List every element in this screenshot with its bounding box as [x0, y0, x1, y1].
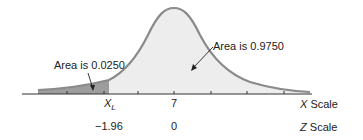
x-scale-label: X Scale: [300, 98, 338, 110]
right-area-label: Area is 0.9750: [213, 40, 284, 52]
normal-distribution-figure: Area is 0.0250 Area is 0.9750 XL 7 X Sca…: [0, 0, 363, 140]
z-center-value: 0: [171, 120, 177, 132]
x-center-value: 7: [171, 97, 177, 109]
z-scale-letter: Z: [300, 121, 307, 133]
left-area-label: Area is 0.0250: [54, 59, 125, 71]
x-lower-label: XL: [104, 97, 116, 109]
x-lower-sub: L: [111, 103, 115, 112]
x-scale-word: Scale: [310, 98, 338, 110]
z-scale-label: Z Scale: [300, 121, 337, 133]
z-scale-word: Scale: [310, 121, 338, 133]
z-lower-value: −1.96: [95, 120, 123, 132]
x-scale-letter: X: [300, 98, 307, 110]
